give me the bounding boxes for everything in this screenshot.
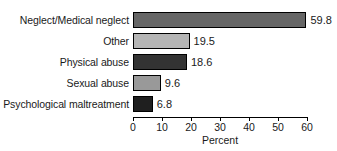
category-label: Sexual abuse bbox=[67, 75, 129, 91]
bar bbox=[133, 54, 187, 70]
bar-value-label: 9.6 bbox=[165, 75, 180, 91]
bar-value-label: 18.6 bbox=[191, 54, 212, 70]
category-label: Psychological maltreatment bbox=[3, 96, 129, 112]
x-axis-tick-label: 10 bbox=[150, 121, 174, 134]
category-label: Other bbox=[103, 33, 129, 49]
bar bbox=[133, 75, 161, 91]
bar-value-label: 6.8 bbox=[157, 96, 172, 112]
bar bbox=[133, 12, 306, 28]
x-axis-tick-label: 0 bbox=[121, 121, 145, 134]
x-axis-tick-label: 50 bbox=[266, 121, 290, 134]
category-label: Physical abuse bbox=[60, 54, 129, 70]
bar-value-label: 59.8 bbox=[310, 12, 331, 28]
category-label: Neglect/Medical neglect bbox=[20, 12, 129, 28]
x-axis-tick-label: 20 bbox=[179, 121, 203, 134]
plot-area: 59.8 19.5 18.6 9.6 6.8 0102030405060 Per… bbox=[133, 0, 337, 151]
bar bbox=[133, 96, 153, 112]
x-axis-tick-label: 60 bbox=[295, 121, 319, 134]
x-axis-tick-label: 40 bbox=[237, 121, 261, 134]
bar-value-label: 19.5 bbox=[194, 33, 215, 49]
x-axis-title: Percent bbox=[133, 134, 307, 147]
x-axis-tick-label: 30 bbox=[208, 121, 232, 134]
bar bbox=[133, 33, 190, 49]
bar-chart: Neglect/Medical neglect Other Physical a… bbox=[0, 0, 337, 151]
category-axis-labels: Neglect/Medical neglect Other Physical a… bbox=[0, 0, 129, 118]
